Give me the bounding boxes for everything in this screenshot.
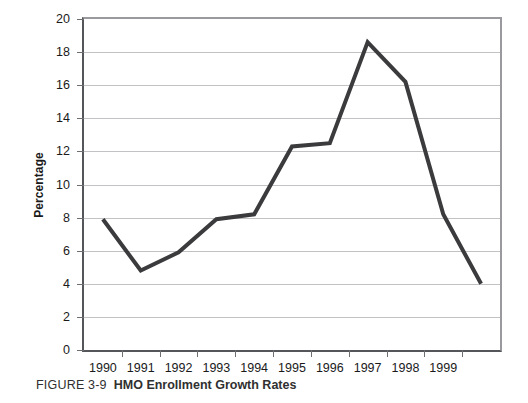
y-axis-tick (77, 52, 84, 53)
y-axis-tick (77, 151, 84, 152)
plot-area (82, 17, 502, 352)
y-axis-tick (77, 317, 84, 318)
x-axis-tick (273, 350, 274, 357)
y-axis-tick-label: 18 (36, 46, 70, 59)
y-axis-tick-label: 10 (36, 179, 70, 192)
y-axis-tick-label: 6 (36, 245, 70, 258)
x-axis-tick (349, 350, 350, 357)
x-axis-tick-label: 1999 (413, 362, 473, 375)
y-axis-tick (77, 19, 84, 20)
y-axis-tick-label: 8 (36, 212, 70, 225)
y-axis-tick (77, 251, 84, 252)
x-axis-tick (462, 350, 463, 357)
data-line (103, 42, 481, 284)
y-axis-tick-label: 0 (36, 344, 70, 357)
y-axis-tick-label: 4 (36, 278, 70, 291)
x-axis-tick (424, 350, 425, 357)
x-axis-tick (197, 350, 198, 357)
y-axis-tick (77, 284, 84, 285)
figure-container: Percentage 02468101214161820 19901991199… (0, 0, 528, 403)
figure-caption: FIGURE 3-9HMO Enrollment Growth Rates (36, 378, 296, 392)
plot-inner (84, 19, 500, 350)
y-axis-tick-label: 16 (36, 79, 70, 92)
y-axis-tick (77, 218, 84, 219)
x-axis-tick (122, 350, 123, 357)
figure-number: FIGURE 3-9 (36, 378, 107, 392)
y-axis-tick (77, 85, 84, 86)
y-axis-tick-label: 14 (36, 112, 70, 125)
x-axis-tick (311, 350, 312, 357)
y-axis-tick (77, 185, 84, 186)
y-axis-tick (77, 350, 84, 351)
y-axis-tick (77, 118, 84, 119)
line-series-group (84, 19, 500, 350)
y-axis-tick-label: 12 (36, 145, 70, 158)
figure-title: HMO Enrollment Growth Rates (114, 378, 297, 392)
x-axis-tick (387, 350, 388, 357)
x-axis-tick (160, 350, 161, 357)
y-axis-tick-label: 20 (36, 13, 70, 26)
x-axis-tick (235, 350, 236, 357)
y-axis-tick-label: 2 (36, 311, 70, 324)
